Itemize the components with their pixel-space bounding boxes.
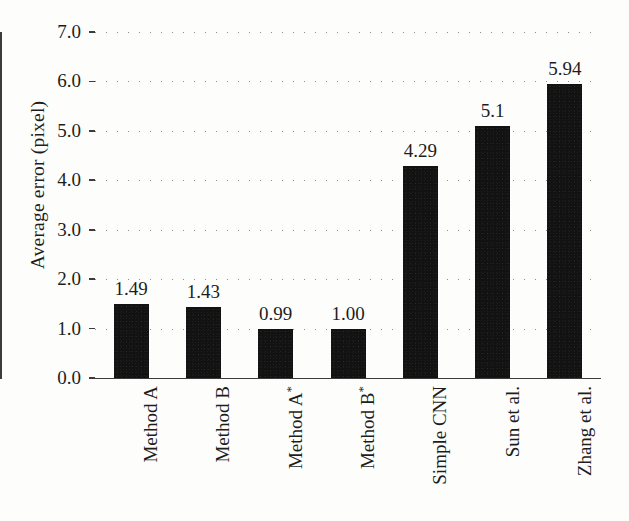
y-axis-tick xyxy=(89,179,95,181)
y-axis-tick xyxy=(89,229,95,231)
x-axis-category-label: Method B xyxy=(212,386,234,463)
x-axis-category-label: Sun et al. xyxy=(502,386,524,457)
gridline xyxy=(95,81,601,82)
bar xyxy=(547,84,582,378)
bar-value-label: 1.49 xyxy=(91,278,171,300)
gridline xyxy=(95,32,601,33)
gridline xyxy=(95,180,601,181)
bar xyxy=(114,304,149,378)
y-axis-tick-label: 7.0 xyxy=(21,21,81,43)
x-axis-category-label: Zhang et al. xyxy=(574,386,596,476)
y-axis-tick-label: 4.0 xyxy=(21,169,81,191)
y-axis-tick-label: 0.0 xyxy=(21,367,81,389)
gridline xyxy=(95,230,601,231)
bar xyxy=(331,329,366,378)
gridline xyxy=(95,131,601,132)
y-axis-tick xyxy=(89,377,95,379)
y-axis-tick xyxy=(89,81,95,83)
x-axis-category-label: Method A xyxy=(140,386,162,463)
x-axis-category-label: Method B* xyxy=(357,386,379,469)
bar-value-label: 1.00 xyxy=(308,303,388,325)
y-axis-tick-label: 1.0 xyxy=(21,318,81,340)
bar xyxy=(475,126,510,378)
y-axis-tick-label: 2.0 xyxy=(21,268,81,290)
bar-value-label: 1.43 xyxy=(163,281,243,303)
bar xyxy=(403,166,438,378)
y-axis-tick xyxy=(89,328,95,330)
bar-value-label: 5.1 xyxy=(453,100,533,122)
bar-value-label: 4.29 xyxy=(380,140,460,162)
bar-chart-figure: Average error (pixel) 0.01.02.03.04.05.0… xyxy=(0,0,629,521)
y-axis-tick xyxy=(89,130,95,132)
y-axis-tick xyxy=(89,31,95,33)
y-axis-tick-label: 5.0 xyxy=(21,120,81,142)
bar xyxy=(258,329,293,378)
y-axis-tick-label: 6.0 xyxy=(21,70,81,92)
bar-value-label: 5.94 xyxy=(525,58,605,80)
x-axis-category-label: Method A* xyxy=(285,386,307,469)
x-axis-category-label: Simple CNN xyxy=(429,386,451,485)
bar xyxy=(186,307,221,378)
bar-value-label: 0.99 xyxy=(236,303,316,325)
y-axis-tick-label: 3.0 xyxy=(21,219,81,241)
y-axis-spine xyxy=(0,32,2,379)
